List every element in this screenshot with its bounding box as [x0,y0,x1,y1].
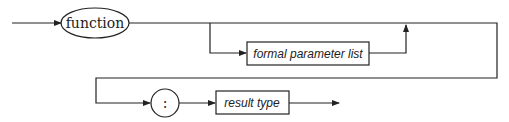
main-path [96,23,497,103]
params-return [369,25,406,53]
syntax-diagram: function formal parameter list : result … [0,0,509,122]
formal-parameter-list-label: formal parameter list [253,47,363,61]
params-branch [210,23,246,53]
colon-label: : [163,95,168,111]
result-type-label: result type [224,96,280,110]
function-keyword: function [66,15,125,31]
